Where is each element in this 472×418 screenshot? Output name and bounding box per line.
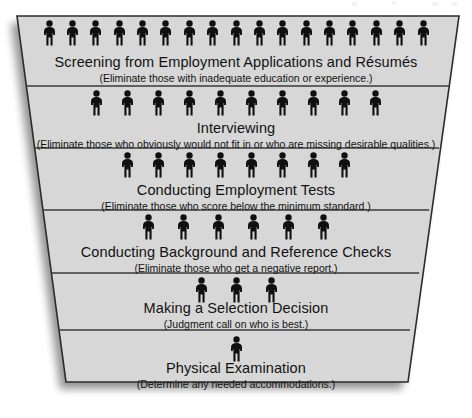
stage-title-1: Screening from Employment Applications a… — [0, 54, 472, 70]
person-pictogram-icon — [317, 214, 330, 240]
person-figure — [338, 90, 351, 116]
person-figure — [230, 336, 243, 362]
person-figure — [317, 214, 330, 240]
person-figure — [245, 152, 258, 178]
person-figure — [152, 90, 165, 116]
person-figure — [323, 20, 336, 46]
person-figure — [214, 90, 227, 116]
person-figure — [177, 214, 190, 240]
figure-row-6 — [0, 336, 472, 362]
person-pictogram-icon — [276, 20, 289, 46]
person-figure — [307, 90, 320, 116]
stage-title-4: Conducting Background and Reference Chec… — [0, 244, 472, 260]
person-pictogram-icon — [152, 152, 165, 178]
person-pictogram-icon — [214, 90, 227, 116]
person-figure — [89, 20, 102, 46]
stage-title-2: Interviewing — [0, 120, 472, 136]
stage-subtitle-3: (Eliminate those who score below the min… — [0, 200, 472, 212]
person-pictogram-icon — [300, 20, 313, 46]
person-pictogram-icon — [113, 20, 126, 46]
figure-row-1 — [0, 20, 472, 46]
person-pictogram-icon — [214, 152, 227, 178]
stage-subtitle-6: (Determine any needed accommodations.) — [0, 378, 472, 390]
person-figure — [393, 20, 406, 46]
person-figure — [338, 152, 351, 178]
person-pictogram-icon — [417, 20, 430, 46]
person-figure — [66, 20, 79, 46]
person-pictogram-icon — [230, 336, 243, 362]
diagram-canvas: Screening from Employment Applications a… — [0, 0, 472, 418]
person-figure — [43, 20, 56, 46]
person-pictogram-icon — [307, 152, 320, 178]
person-pictogram-icon — [121, 90, 134, 116]
person-figure — [113, 20, 126, 46]
person-pictogram-icon — [338, 90, 351, 116]
person-pictogram-icon — [136, 20, 149, 46]
person-pictogram-icon — [369, 90, 382, 116]
stage-title-5: Making a Selection Decision — [0, 300, 472, 316]
person-figure — [90, 90, 103, 116]
person-pictogram-icon — [245, 152, 258, 178]
person-pictogram-icon — [346, 20, 359, 46]
figure-row-4 — [0, 214, 472, 240]
stage-title-6: Physical Examination — [0, 360, 472, 376]
person-figure — [136, 20, 149, 46]
person-pictogram-icon — [370, 20, 383, 46]
person-figure — [276, 20, 289, 46]
person-pictogram-icon — [276, 152, 289, 178]
person-pictogram-icon — [230, 20, 243, 46]
person-pictogram-icon — [393, 20, 406, 46]
person-pictogram-icon — [253, 20, 266, 46]
person-figure — [307, 152, 320, 178]
person-figure — [370, 20, 383, 46]
person-figure — [212, 214, 225, 240]
person-pictogram-icon — [206, 20, 219, 46]
stage-subtitle-1: (Eliminate those with inadequate educati… — [0, 72, 472, 84]
person-pictogram-icon — [66, 20, 79, 46]
person-pictogram-icon — [276, 90, 289, 116]
stage-subtitle-5: (Judgment call on who is best.) — [0, 318, 472, 330]
person-pictogram-icon — [121, 152, 134, 178]
person-figure — [183, 152, 196, 178]
person-figure — [282, 214, 295, 240]
person-figure — [230, 20, 243, 46]
person-pictogram-icon — [183, 20, 196, 46]
person-figure — [245, 90, 258, 116]
person-figure — [206, 20, 219, 46]
person-pictogram-icon — [89, 20, 102, 46]
stage-subtitle-2: (Eliminate those who obviously would not… — [0, 138, 472, 150]
person-pictogram-icon — [152, 90, 165, 116]
person-figure — [300, 20, 313, 46]
person-pictogram-icon — [282, 214, 295, 240]
person-pictogram-icon — [183, 90, 196, 116]
person-figure — [183, 20, 196, 46]
person-figure — [417, 20, 430, 46]
person-figure — [276, 90, 289, 116]
person-figure — [142, 214, 155, 240]
person-figure — [369, 90, 382, 116]
person-figure — [346, 20, 359, 46]
person-pictogram-icon — [245, 90, 258, 116]
figure-row-3 — [0, 152, 472, 178]
person-figure — [121, 90, 134, 116]
person-figure — [214, 152, 227, 178]
stage-title-3: Conducting Employment Tests — [0, 182, 472, 198]
person-figure — [121, 152, 134, 178]
person-pictogram-icon — [323, 20, 336, 46]
person-pictogram-icon — [159, 20, 172, 46]
person-pictogram-icon — [247, 214, 260, 240]
person-pictogram-icon — [90, 90, 103, 116]
person-pictogram-icon — [43, 20, 56, 46]
person-pictogram-icon — [307, 90, 320, 116]
person-figure — [152, 152, 165, 178]
person-figure — [183, 90, 196, 116]
person-pictogram-icon — [212, 214, 225, 240]
person-figure — [159, 20, 172, 46]
figure-row-2 — [0, 90, 472, 116]
stage-subtitle-4: (Eliminate those who get a negative repo… — [0, 262, 472, 274]
person-figure — [247, 214, 260, 240]
person-figure — [276, 152, 289, 178]
person-pictogram-icon — [142, 214, 155, 240]
person-figure — [253, 20, 266, 46]
person-pictogram-icon — [177, 214, 190, 240]
